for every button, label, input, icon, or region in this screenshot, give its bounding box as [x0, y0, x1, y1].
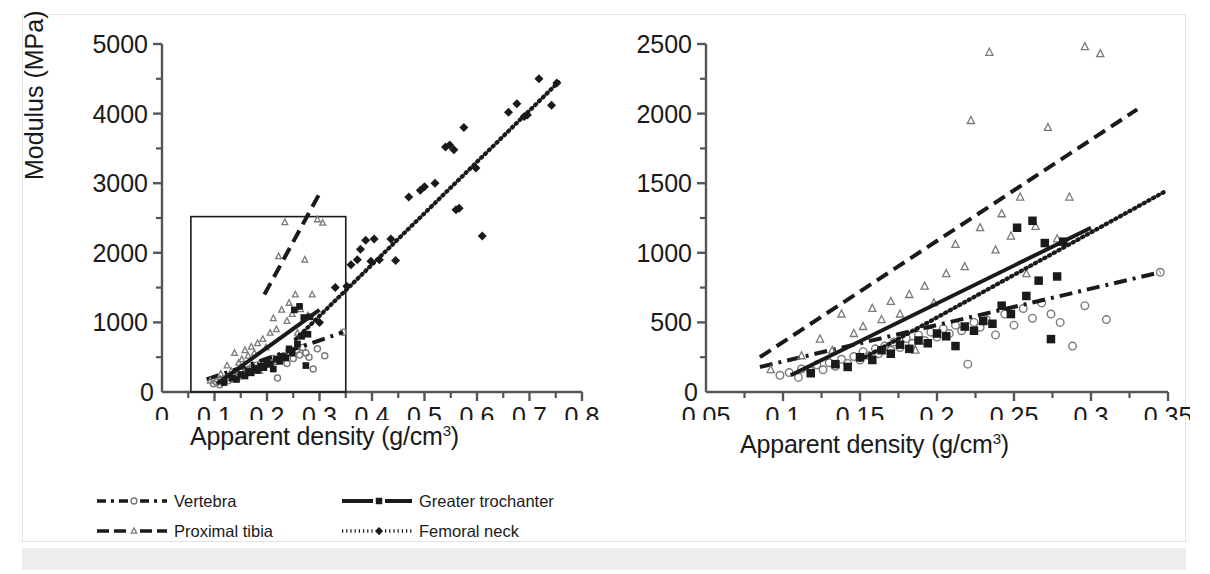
data-point-proximal-tibia	[1097, 50, 1104, 57]
data-point-greater-trochanter	[831, 360, 840, 369]
data-point-greater-trochanter	[806, 369, 815, 378]
data-point-femoral-neck	[370, 234, 379, 243]
x-tick-label: 0.15	[836, 402, 885, 420]
x-tick-label: 0.6	[460, 402, 495, 420]
data-point-greater-trochanter	[942, 332, 951, 341]
x-tick-label: 0.2	[920, 402, 955, 420]
legend-key-proximal-tibia	[95, 522, 169, 540]
data-point-femoral-neck	[534, 74, 543, 83]
data-point-proximal-tibia	[906, 291, 913, 298]
data-point-femoral-neck	[431, 179, 440, 188]
data-point-greater-trochanter	[887, 349, 896, 358]
data-point-greater-trochanter	[1013, 223, 1022, 232]
legend-key-vertebra	[95, 492, 169, 510]
data-point-femoral-neck	[547, 101, 556, 110]
data-point-greater-trochanter	[1034, 276, 1043, 285]
bottom-gray-band	[22, 548, 1186, 570]
trendline-femoral-neck	[860, 192, 1165, 360]
data-point-proximal-tibia	[798, 352, 805, 359]
data-point-femoral-neck	[459, 123, 468, 132]
data-point-proximal-tibia	[320, 220, 326, 226]
legend-label-proximal-tibia: Proximal tibia	[174, 522, 273, 541]
data-point-vertebra	[1103, 316, 1111, 324]
x-tick-label: 0.5	[407, 402, 442, 420]
data-point-proximal-tibia	[292, 291, 298, 297]
figure-root: 01000200030004000500000.10.20.30.40.50.6…	[0, 0, 1210, 574]
right-x-axis-title: Apparent density (g/cm3)	[740, 430, 1009, 459]
data-point-femoral-neck	[404, 193, 413, 202]
data-point-proximal-tibia	[878, 316, 885, 323]
x-tick-label: 0.7	[512, 402, 547, 420]
x-tick-label: 0.2	[250, 402, 285, 420]
data-point-greater-trochanter	[289, 350, 296, 357]
x-tick-label: 0.4	[355, 402, 390, 420]
trendline-femoral-neck	[296, 82, 559, 339]
data-layer	[207, 74, 562, 387]
x-tick-label: 0.1	[197, 402, 232, 420]
chart-legend: Vertebra Greater trochanter Proximal tib…	[95, 486, 565, 546]
data-point-greater-trochanter	[951, 342, 960, 351]
data-point-proximal-tibia	[1066, 193, 1073, 200]
data-point-proximal-tibia	[921, 282, 928, 289]
data-point-vertebra	[290, 356, 296, 362]
data-point-proximal-tibia	[986, 48, 993, 55]
data-point-femoral-neck	[356, 245, 365, 254]
right-x-axis-title-base: Apparent density (g/cm	[740, 430, 993, 458]
data-point-greater-trochanter	[294, 341, 301, 348]
data-point-proximal-tibia	[282, 219, 288, 225]
right-x-axis-title-sup: 3	[993, 430, 1001, 447]
data-point-proximal-tibia	[224, 362, 230, 368]
data-point-proximal-tibia	[1017, 193, 1024, 200]
right-x-axis-title-tail: )	[1001, 430, 1009, 458]
data-point-vertebra	[314, 346, 320, 352]
data-point-greater-trochanter	[1041, 239, 1050, 248]
legend-row-1: Vertebra Greater trochanter	[95, 486, 565, 516]
data-point-proximal-tibia	[850, 329, 857, 336]
data-point-vertebra	[297, 352, 303, 358]
legend-item-proximal-tibia[interactable]: Proximal tibia	[95, 522, 340, 541]
series-proximal-tibia	[760, 43, 1137, 373]
data-point-proximal-tibia	[961, 263, 968, 270]
legend-item-vertebra[interactable]: Vertebra	[95, 492, 340, 511]
data-point-greater-trochanter	[283, 355, 290, 362]
data-point-proximal-tibia	[992, 246, 999, 253]
legend-marker	[376, 498, 382, 504]
data-point-greater-trochanter	[1022, 292, 1031, 301]
legend-marker	[375, 527, 383, 535]
data-point-proximal-tibia	[1007, 232, 1014, 239]
data-point-greater-trochanter	[843, 363, 852, 372]
legend-row-2: Proximal tibia Femoral neck	[95, 516, 565, 546]
chart-panel-right: 050010001500200025000.050.10.150.20.250.…	[630, 30, 1190, 420]
data-point-vertebra	[306, 354, 312, 360]
y-tick-label: 1500	[636, 169, 692, 197]
data-point-proximal-tibia	[245, 353, 251, 359]
legend-item-greater-trochanter[interactable]: Greater trochanter	[340, 492, 565, 511]
data-point-proximal-tibia	[309, 291, 315, 297]
data-point-greater-trochanter	[1028, 217, 1037, 226]
data-point-vertebra	[776, 371, 784, 379]
chart-panel-left: 01000200030004000500000.10.20.30.40.50.6…	[40, 30, 600, 420]
data-point-greater-trochanter	[1007, 310, 1016, 319]
data-point-proximal-tibia	[286, 300, 292, 306]
data-point-vertebra	[1047, 310, 1055, 318]
data-point-greater-trochanter	[896, 340, 905, 349]
data-point-proximal-tibia	[1081, 43, 1088, 50]
data-point-femoral-neck	[391, 256, 400, 265]
legend-item-femoral-neck[interactable]: Femoral neck	[340, 522, 565, 541]
x-tick-label: 0.05	[682, 402, 731, 420]
left-x-axis-title-sup: 3	[443, 422, 451, 439]
y-tick-label: 2000	[92, 239, 148, 267]
data-point-vertebra	[1069, 342, 1077, 350]
data-point-vertebra	[1056, 319, 1064, 327]
data-point-proximal-tibia	[260, 336, 266, 342]
data-point-proximal-tibia	[977, 224, 984, 231]
data-point-femoral-neck	[478, 232, 487, 241]
data-point-proximal-tibia	[943, 270, 950, 277]
data-point-greater-trochanter	[979, 317, 988, 326]
x-tick-label: 0.1	[766, 402, 801, 420]
data-point-vertebra	[964, 360, 972, 368]
data-point-vertebra	[819, 366, 827, 374]
data-point-proximal-tibia	[218, 371, 224, 377]
trendline-greater-trochanter	[217, 310, 319, 384]
y-tick-label: 0	[140, 378, 154, 406]
